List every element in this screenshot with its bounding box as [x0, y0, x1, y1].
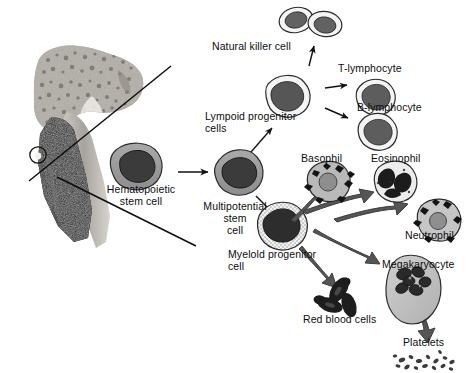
b-lymphocyte-illustration — [358, 113, 397, 150]
label-basophil: Basophil — [301, 152, 342, 164]
natural-killer-cell-illustration — [277, 4, 344, 39]
label-platelets: Platelets — [403, 336, 444, 348]
label-eosinophil: Eosinophil — [371, 152, 420, 164]
label-lymphoid-progenitor-cells: Lympoid progenitor cells — [205, 110, 296, 134]
arrow-myeloid-to-neutrophil — [334, 201, 408, 222]
label-b-lymphocyte: B-lymphocyte — [357, 101, 422, 113]
arrow-myeloid-to-megakaryocyte — [313, 229, 380, 264]
label-natural-killer-cell: Natural killer cell — [212, 40, 291, 52]
label-t-lymphocyte: T-lymphocyte — [338, 62, 402, 74]
cell-lineage-layer — [0, 0, 467, 373]
multipotential-stem-cell-illustration — [215, 150, 263, 195]
arrow-lymphoid-to-b — [325, 108, 348, 118]
label-red-blood-cells: Red blood cells — [303, 313, 376, 325]
arrow-lymphoid-to-t — [325, 85, 347, 88]
label-myeloid-progenitor-cell: Myelold progenitor cell — [228, 248, 316, 272]
hematopoiesis-figure: Hematopoietic stem cell Multipotential s… — [0, 0, 467, 373]
arrow-lymphoid-to-nk — [309, 46, 314, 66]
platelets-illustration — [393, 349, 456, 371]
label-multipotential-stem-cell: Multipotential stem cell — [185, 200, 285, 236]
label-hematopoietic-stem-cell: Hematopoietic stem cell — [95, 183, 187, 207]
eosinophil-illustration — [374, 161, 417, 202]
label-megakaryocyte: Megakaryocyte — [382, 258, 455, 270]
label-neutrophil: Neutrophil — [405, 229, 454, 241]
